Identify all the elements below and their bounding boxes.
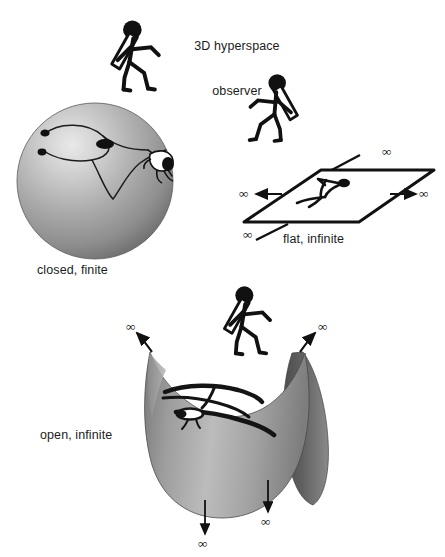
panel-closed-sphere [17,103,174,259]
infinity-symbol-open-upper-right: ∞ [318,320,327,333]
infinity-symbol-flat-upper-right: ∞ [382,145,391,158]
flat-label: flat, infinite [283,232,344,247]
infinity-symbol-open-bottom-right: ∞ [261,515,270,528]
sphere-path-node [40,129,49,136]
closed-label: closed, finite [37,263,108,278]
saddle-arrow-upper-right [300,333,315,352]
sphere-path-node [96,139,114,149]
saddle-front-surface [145,352,309,518]
plane-surface [244,170,434,222]
saddle-arrow-upper-left [137,333,152,352]
infinity-symbol-open-upper-left: ∞ [126,320,135,333]
observer-label: 3D hyperspace observer [177,9,297,129]
panel-open-saddle [137,333,328,534]
infinity-symbol-flat-lower-left: ∞ [243,228,252,241]
open-label: open, infinite [40,428,112,443]
sphere-path-node [38,149,47,156]
panel-flat-plane [244,155,434,240]
observer-label-line2: observer [177,84,297,99]
saddle-infinity-arrows-top [137,333,315,352]
infinity-symbol-open-bottom-left: ∞ [198,537,207,550]
observer-figure-closed [112,20,159,90]
observer-label-line1: 3D hyperspace [177,39,297,54]
observer-figure-open [224,286,270,354]
infinity-symbol-flat-right: ∞ [419,187,428,200]
infinity-symbol-flat-left: ∞ [239,187,248,200]
sphere-surface [17,103,173,259]
cosmology-geometry-diagram: 3D hyperspace observer closed, finite fl… [0,0,445,557]
